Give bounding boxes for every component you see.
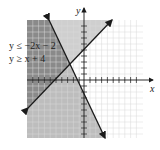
graph-canvas <box>0 0 160 150</box>
inequality-label-1: y ≤ −2x − 2 <box>9 41 56 51</box>
inequality-label-2: y ≥ x + 4 <box>9 54 45 64</box>
y-axis-label: y <box>76 6 80 16</box>
x-axis-label: x <box>150 84 154 94</box>
